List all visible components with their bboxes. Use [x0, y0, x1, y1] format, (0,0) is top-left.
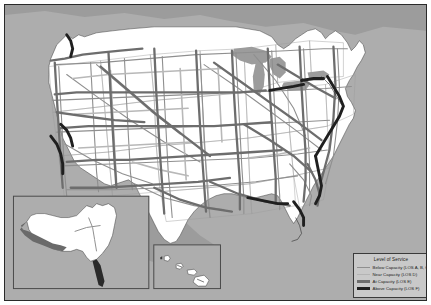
hawaii-inset-content [153, 244, 221, 289]
legend-item-at-capacity: At Capacity (LOS E) [357, 278, 425, 285]
legend-swatch-below-capacity [357, 267, 370, 268]
map-figure: Level of Service Below Capacity (LOS A, … [0, 0, 431, 305]
alaska-inset-content [13, 196, 149, 289]
legend-swatch-near-capacity [357, 274, 370, 276]
legend-swatch-at-capacity [357, 280, 370, 282]
legend-item-near-capacity: Near Capacity (LOS D) [357, 271, 425, 278]
legend-label-below-capacity: Below Capacity (LOS A, B, C) [373, 264, 428, 271]
legend-title: Level of Service [357, 257, 425, 263]
legend-item-above-capacity: Above Capacity (LOS F) [357, 285, 425, 292]
legend-swatch-above-capacity [357, 287, 370, 290]
legend-item-below-capacity: Below Capacity (LOS A, B, C) [357, 264, 425, 271]
legend-label-above-capacity: Above Capacity (LOS F) [373, 285, 420, 292]
legend-label-near-capacity: Near Capacity (LOS D) [373, 271, 418, 278]
legend-label-at-capacity: At Capacity (LOS E) [373, 278, 412, 285]
legend-panel: Level of Service Below Capacity (LOS A, … [353, 253, 427, 298]
map-frame: Level of Service Below Capacity (LOS A, … [4, 4, 427, 301]
